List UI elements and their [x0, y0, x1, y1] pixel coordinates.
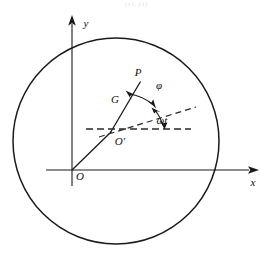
dashed-inclined-reference [99, 107, 196, 137]
omega-t-angle-label: ωt [157, 114, 169, 126]
o-prime-label: O' [115, 135, 126, 147]
phi-angle-label: φ [156, 79, 162, 91]
x-axis-label: x [250, 176, 256, 188]
omega-t-arc-start-arrowhead [152, 108, 161, 114]
figure-canvas: (x1, y1) O x y [0, 0, 273, 262]
origin-to-center-line [72, 132, 112, 171]
center-to-p-line [111, 82, 141, 133]
g-point-label: G [111, 93, 119, 105]
y-axis-label: y [83, 17, 89, 29]
phi-arc-end-arrowhead [148, 99, 156, 108]
p-point-label: P [134, 66, 142, 78]
y-axis-arrowhead [68, 15, 76, 26]
rotor-geometry-diagram: O x y O' P G φ ωt [0, 0, 273, 262]
origin-label: O [76, 170, 84, 182]
x-axis-arrowhead [248, 166, 259, 174]
